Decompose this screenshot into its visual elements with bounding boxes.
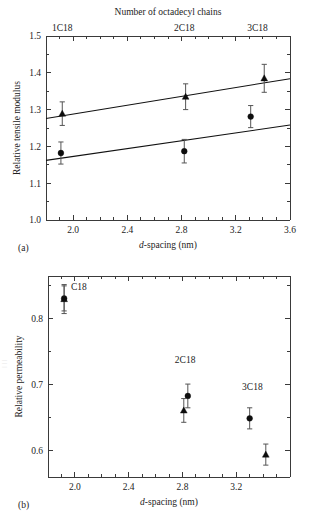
data-point: [182, 84, 189, 110]
svg-text:2.0: 2.0: [67, 225, 79, 235]
svg-text:3.6: 3.6: [284, 225, 296, 235]
figure-container: 2.02.42.83.23.61.01.11.21.31.41.5Number …: [0, 0, 310, 518]
panel-b-annotation: 3C18: [242, 382, 263, 392]
circle-marker: [181, 148, 187, 154]
data-point: [248, 106, 254, 128]
data-point: [262, 444, 269, 465]
panel-a-label: (a): [18, 243, 29, 254]
triangle-marker: [261, 75, 268, 81]
data-point: [247, 408, 253, 429]
panel-a-xlabel: d-spacing (nm): [139, 240, 197, 251]
panel-b-annotation: C18: [71, 282, 87, 292]
circle-marker: [248, 114, 254, 120]
svg-text:0.8: 0.8: [31, 314, 43, 324]
trend-lower-fit: [46, 125, 290, 160]
svg-text:2.8: 2.8: [177, 482, 189, 492]
svg-text:0.7: 0.7: [31, 380, 43, 390]
data-point: [58, 142, 64, 164]
svg-text:1.0: 1.0: [29, 215, 41, 225]
panel-a-ticks: [46, 36, 290, 220]
triangle-marker: [262, 451, 269, 457]
circle-marker: [185, 393, 191, 399]
panel-b-annotation: 2C18: [175, 355, 196, 365]
panel-a-top-label: 3C18: [247, 23, 268, 33]
panel-a-top-title: Number of octadecyl chains: [115, 7, 222, 17]
trend-upper-fit: [46, 79, 290, 119]
data-point: [59, 102, 66, 126]
data-point: [180, 399, 187, 423]
circle-marker: [247, 415, 253, 421]
panel-a-top-label: 2C18: [174, 23, 195, 33]
panel-b-circle-series: [61, 286, 252, 429]
panel-a-axes: [46, 36, 290, 220]
svg-text:0.6: 0.6: [31, 446, 43, 456]
svg-text:2.8: 2.8: [176, 225, 188, 235]
svg-text:1.1: 1.1: [29, 179, 41, 189]
panel-a-top-label: 1C18: [52, 23, 73, 33]
panel-a-triangle-series: [59, 64, 268, 125]
svg-text:3.2: 3.2: [230, 482, 242, 492]
panel-b: 2.02.42.83.20.60.70.8C182C183C18d-spacin…: [14, 276, 290, 508]
svg-text:1.3: 1.3: [29, 105, 41, 115]
panel-a-ylabel: Relative tensile modulus: [12, 81, 22, 175]
panel-b-label: (b): [18, 500, 29, 511]
figure-svg: 2.02.42.83.23.61.01.11.21.31.41.5Number …: [0, 0, 310, 518]
data-point: [181, 139, 187, 163]
svg-text:1.4: 1.4: [29, 68, 41, 78]
panel-b-tick-labels: 2.02.42.83.20.60.70.8: [31, 314, 242, 492]
data-point: [185, 384, 191, 408]
svg-text:2.0: 2.0: [69, 482, 81, 492]
svg-text:1.5: 1.5: [29, 31, 41, 41]
data-point: [261, 64, 268, 92]
svg-text:3.2: 3.2: [230, 225, 242, 235]
svg-text:2.4: 2.4: [121, 225, 133, 235]
panel-b-xlabel: d-spacing (nm): [140, 497, 198, 508]
panel-b-ticks: [48, 276, 290, 477]
panel-b-triangle-series: [61, 285, 269, 466]
panel-a-tick-labels: 2.02.42.83.23.61.01.11.21.31.41.5: [29, 31, 296, 235]
panel-b-ylabel: Relative permeability: [14, 335, 24, 417]
circle-marker: [58, 150, 64, 156]
svg-text:1.2: 1.2: [29, 142, 41, 152]
panel-b-axes: [48, 276, 290, 477]
panel-a-trend-lines: [46, 79, 290, 161]
panel-a: 2.02.42.83.23.61.01.11.21.31.41.5Number …: [12, 7, 296, 251]
svg-text:2.4: 2.4: [123, 482, 135, 492]
triangle-marker: [59, 110, 66, 116]
